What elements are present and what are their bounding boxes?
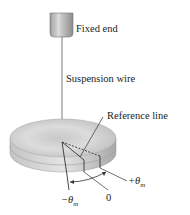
label-reference-line: Reference line — [107, 111, 168, 122]
label-minus-theta-m: −θm — [61, 195, 78, 208]
label-plus-theta-m: +θm — [128, 176, 145, 189]
fixed-end-cap — [50, 13, 73, 37]
label-fixed-end: Fixed end — [76, 24, 118, 35]
label-suspension-wire: Suspension wire — [66, 74, 135, 85]
label-zero: 0 — [106, 193, 111, 204]
angle-arc — [70, 172, 106, 184]
